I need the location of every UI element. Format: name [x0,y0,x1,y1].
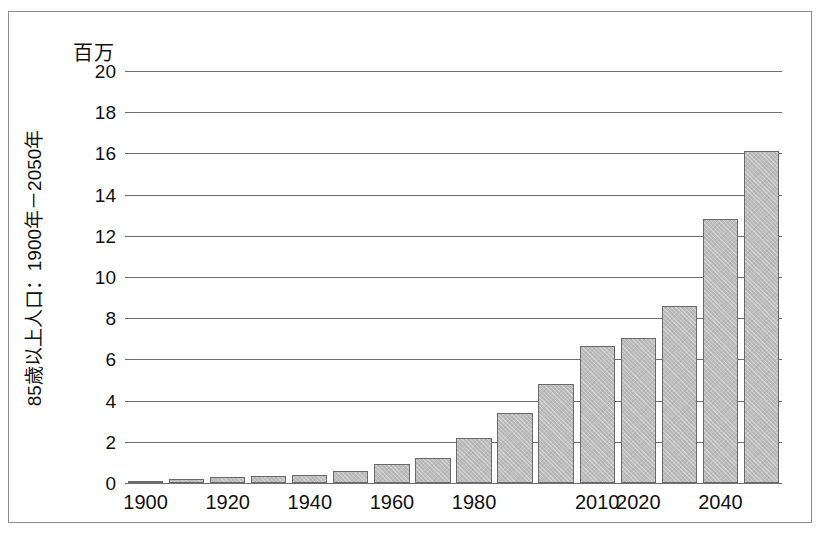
bar [374,464,409,483]
bar [744,151,779,483]
gridline [125,153,782,154]
gridline [125,236,782,237]
x-axis-tick-label: 2040 [698,491,743,514]
x-axis-tick-label: 1960 [370,491,415,514]
y-axis-tick-label: 2 [105,432,116,451]
x-axis-tick-label: 1980 [452,491,497,514]
bar [128,481,163,483]
y-axis-tick-label: 20 [95,62,116,81]
gridline [125,195,782,196]
y-axis-tick-label: 18 [95,103,116,122]
y-axis-tick-label: 6 [105,350,116,369]
chart-figure: 百万 85歳以上人口：1900年－2050年 02468101214161820… [8,11,812,523]
gridline [125,277,782,278]
bar [251,476,286,483]
bar [662,306,697,483]
gridline [125,112,782,113]
x-axis-baseline [125,483,782,484]
bar [621,338,656,483]
bar [210,477,245,483]
bar [415,458,450,483]
x-axis-tick-label: 2010 [575,491,620,514]
bar [497,413,532,483]
bar [333,471,368,483]
bar [538,384,573,483]
x-axis-tick-label: 1900 [123,491,168,514]
x-axis-tick-label: 1940 [288,491,333,514]
y-axis-tick-label: 14 [95,185,116,204]
gridline [125,71,782,72]
bar [703,219,738,483]
x-axis-tick-label: 1920 [205,491,250,514]
y-axis-tick-label: 8 [105,309,116,328]
bar [292,475,327,483]
plot-area: 02468101214161820 1900192019401960198020… [125,71,782,494]
y-axis-tick-label: 16 [95,144,116,163]
y-axis-tick-label: 10 [95,268,116,287]
x-axis-tick-label: 2020 [616,491,661,514]
bar [456,438,491,483]
y-axis-label: 85歳以上人口：1900年－2050年 [19,130,46,407]
y-axis-tick-label: 0 [105,474,116,493]
y-axis-tick-label: 4 [105,391,116,410]
y-axis-tick-label: 12 [95,226,116,245]
bar [580,346,615,483]
bar [169,479,204,483]
y-axis-label-container: 85歳以上人口：1900年－2050年 [9,12,55,524]
